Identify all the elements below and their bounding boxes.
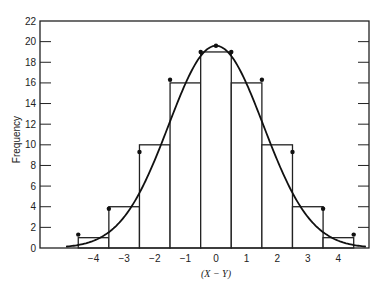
x-tick-label: 4 bbox=[336, 253, 342, 264]
y-tick-label: 2 bbox=[30, 222, 36, 233]
y-tick-label: 12 bbox=[25, 119, 37, 130]
x-tick-label: 2 bbox=[274, 253, 280, 264]
y-tick-label: 16 bbox=[25, 77, 37, 88]
bars bbox=[78, 52, 353, 248]
bar bbox=[78, 238, 109, 248]
y-tick-label: 8 bbox=[30, 160, 36, 171]
y-tick-label: 14 bbox=[25, 98, 37, 109]
y-tick-label: 10 bbox=[25, 139, 37, 150]
bar bbox=[323, 238, 354, 248]
curve-point bbox=[290, 150, 294, 154]
curve-point bbox=[198, 50, 202, 54]
x-tick-label: −1 bbox=[180, 253, 192, 264]
curve-point bbox=[137, 150, 141, 154]
x-tick-label: 0 bbox=[213, 253, 219, 264]
bar bbox=[201, 52, 232, 248]
curve-point bbox=[229, 50, 233, 54]
y-tick-label: 20 bbox=[25, 36, 37, 47]
x-tick-label: −2 bbox=[149, 253, 161, 264]
x-tick-label: 1 bbox=[244, 253, 250, 264]
histogram-chart: 0246810121416182022 −4−3−2−101234 Freque… bbox=[0, 0, 387, 285]
curve-point bbox=[351, 232, 355, 236]
x-axis: −4−3−2−101234 bbox=[88, 253, 342, 264]
y-tick-label: 6 bbox=[30, 181, 36, 192]
x-tick-label: 3 bbox=[305, 253, 311, 264]
curve-point bbox=[321, 207, 325, 211]
curve-point bbox=[214, 44, 218, 48]
x-tick-label: −4 bbox=[88, 253, 100, 264]
y-tick-label: 18 bbox=[25, 57, 37, 68]
y-tick-label: 22 bbox=[25, 16, 37, 27]
curve-point bbox=[168, 78, 172, 82]
x-tick-label: −3 bbox=[118, 253, 130, 264]
x-axis-title: (X − Y) bbox=[201, 268, 232, 280]
y-tick-label: 4 bbox=[30, 201, 36, 212]
y-axis-title: Frequency bbox=[11, 116, 22, 163]
y-tick-label: 0 bbox=[30, 243, 36, 254]
curve-point bbox=[76, 232, 80, 236]
curve-point bbox=[260, 78, 264, 82]
curve-point bbox=[107, 207, 111, 211]
